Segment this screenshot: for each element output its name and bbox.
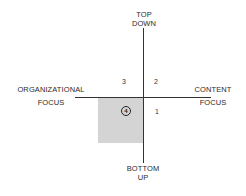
right-axis-label: CONTENT FOCUS bbox=[188, 86, 238, 107]
right-label-line2: FOCUS bbox=[188, 99, 238, 108]
quadrant-2-label: 2 bbox=[154, 78, 158, 86]
highlighted-quadrant-4 bbox=[98, 97, 143, 143]
vertical-axis bbox=[143, 28, 144, 163]
quadrant-1-label: 1 bbox=[155, 108, 159, 116]
top-label-line2: DOWN bbox=[124, 20, 164, 29]
left-label-line1: ORGANIZATIONAL bbox=[8, 86, 94, 95]
left-label-line2: FOCUS bbox=[8, 99, 94, 108]
top-axis-label: TOP DOWN bbox=[124, 11, 164, 28]
quadrant-3-label: 3 bbox=[122, 78, 126, 86]
bottom-label-line2: UP bbox=[118, 174, 168, 183]
bottom-axis-label: BOTTOM UP bbox=[118, 165, 168, 182]
quadrant-4-circled-label: 4 bbox=[121, 106, 131, 116]
right-label-line1: CONTENT bbox=[188, 86, 238, 95]
left-axis-label: ORGANIZATIONAL FOCUS bbox=[8, 86, 94, 107]
